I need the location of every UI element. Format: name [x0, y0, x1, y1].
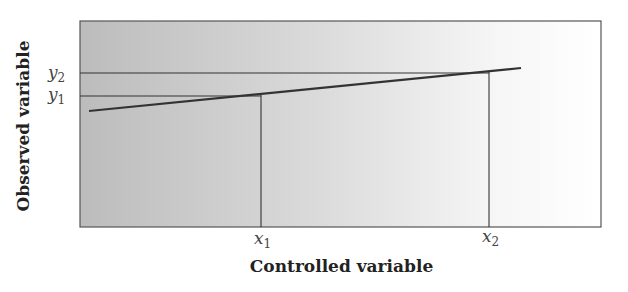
x2-tick-label: x2	[482, 226, 499, 249]
x1-var: x	[254, 228, 264, 248]
x-axis-label: Controlled variable	[0, 256, 628, 276]
x2-sub: 2	[492, 235, 500, 249]
y1-tick-label: y1	[48, 84, 65, 107]
y1-sub: 1	[58, 93, 66, 107]
x1-tick-label: x1	[254, 228, 271, 251]
y-axis-label-text: Observed variable	[13, 40, 33, 211]
plot-area	[80, 21, 601, 227]
y1-var: y	[48, 84, 58, 104]
y2-var: y	[48, 62, 58, 82]
diagram-canvas	[0, 0, 628, 292]
y-axis-label: Observed variable	[8, 20, 38, 232]
y2-tick-label: y2	[48, 62, 65, 85]
x2-var: x	[482, 226, 492, 246]
x1-sub: 1	[264, 237, 272, 251]
